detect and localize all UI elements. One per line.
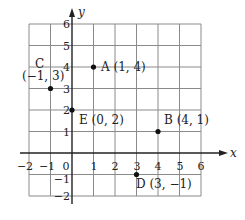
label-a: A (1, 4) [100, 60, 146, 74]
svg-text:5: 5 [177, 160, 184, 173]
point-c [48, 86, 53, 91]
svg-text:2: 2 [63, 104, 70, 117]
svg-text:1: 1 [63, 126, 70, 139]
label-e: E (0, 2) [79, 113, 124, 127]
x-axis-arrow-icon [219, 150, 228, 156]
point-b [155, 129, 160, 134]
svg-text:−2: −2 [17, 160, 33, 173]
coordinate-plane: x y −2 −1 0 1 2 3 4 5 6 6 5 4 3 2 1 −1 −… [0, 0, 245, 220]
label-c-coords: (−1, 3) [22, 69, 64, 83]
svg-text:3: 3 [134, 160, 141, 173]
y-axis-label: y [77, 5, 85, 19]
svg-text:4: 4 [155, 160, 162, 173]
point-e [69, 107, 74, 112]
svg-text:1: 1 [91, 160, 98, 173]
svg-text:5: 5 [63, 40, 70, 53]
svg-text:0: 0 [63, 160, 70, 173]
svg-text:6: 6 [63, 18, 70, 31]
svg-text:2: 2 [112, 160, 119, 173]
svg-text:−2: −2 [54, 190, 70, 203]
x-tick-labels: −2 −1 0 1 2 3 4 5 6 [17, 160, 205, 173]
svg-text:3: 3 [63, 83, 70, 96]
svg-text:6: 6 [198, 160, 205, 173]
x-axis-label: x [230, 146, 237, 160]
y-axis-arrow-icon [69, 8, 75, 17]
svg-text:−1: −1 [54, 173, 70, 186]
label-b: B (4, 1) [164, 113, 209, 127]
label-d: D (3, −1) [136, 177, 192, 191]
point-a [91, 64, 96, 69]
svg-text:−1: −1 [39, 160, 55, 173]
